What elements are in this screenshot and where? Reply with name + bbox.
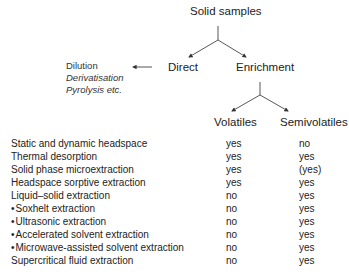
node-enrichment: Enrichment xyxy=(236,61,294,73)
node-direct: Direct xyxy=(168,61,198,73)
table-cell-semivolatiles: yes xyxy=(299,254,315,267)
table-cell-semivolatiles: (yes) xyxy=(299,163,321,176)
table-cell-volatiles: yes xyxy=(226,163,242,176)
table-cell-volatiles: no xyxy=(226,254,237,267)
direct-methods-list: Dilution Derivatisation Pyrolysis etc. xyxy=(66,60,124,96)
table-row-method: Static and dynamic headspace xyxy=(11,137,147,150)
table-cell-volatiles: yes xyxy=(226,176,242,189)
table-row-method: Headspace sorptive extraction xyxy=(11,176,146,189)
table-cell-semivolatiles: yes xyxy=(299,189,315,202)
table-cell-semivolatiles: yes xyxy=(299,215,315,228)
table-row-method-bullet: Accelerated solvent extraction xyxy=(11,228,149,241)
node-semivolatiles: Semivolatiles xyxy=(280,116,348,128)
direct-method-derivatisation: Derivatisation xyxy=(66,72,124,84)
table-cell-volatiles: no xyxy=(226,202,237,215)
direct-method-dilution: Dilution xyxy=(66,60,124,72)
table-cell-semivolatiles: no xyxy=(299,137,310,150)
table-row-method: Solid phase microextraction xyxy=(11,163,134,176)
table-cell-semivolatiles: yes xyxy=(299,228,315,241)
table-cell-semivolatiles: yes xyxy=(299,176,315,189)
node-volatiles: Volatiles xyxy=(214,116,257,128)
table-cell-volatiles: yes xyxy=(226,150,242,163)
table-row-method-bullet: Microwave-assisted solvent extraction xyxy=(11,241,184,254)
table-cell-volatiles: no xyxy=(226,228,237,241)
direct-method-pyrolysis: Pyrolysis etc. xyxy=(66,84,124,96)
table-cell-volatiles: no xyxy=(226,189,237,202)
table-row-method-bullet: Soxhelt extraction xyxy=(11,202,95,215)
table-row-method: Supercritical fluid extraction xyxy=(11,254,133,267)
table-row-method: Thermal desorption xyxy=(11,150,97,163)
root-node-solid-samples: Solid samples xyxy=(190,5,262,17)
table-row-method-bullet: Ultrasonic extraction xyxy=(11,215,106,228)
table-cell-semivolatiles: yes xyxy=(299,241,315,254)
table-cell-semivolatiles: yes xyxy=(299,202,315,215)
table-cell-volatiles: no xyxy=(226,215,237,228)
table-row-method: Liquid–solid extraction xyxy=(11,189,110,202)
table-cell-volatiles: yes xyxy=(226,137,242,150)
table-cell-semivolatiles: yes xyxy=(299,150,315,163)
table-cell-volatiles: no xyxy=(226,241,237,254)
